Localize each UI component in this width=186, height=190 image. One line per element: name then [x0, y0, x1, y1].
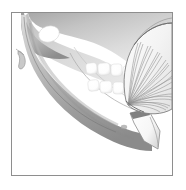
tooth-lower-3	[113, 82, 124, 94]
tooth-upper-2	[98, 63, 111, 76]
tooth-upper-1	[86, 62, 98, 74]
tooth-lower-1	[88, 79, 100, 91]
illustration-frame	[11, 12, 173, 176]
anatomy-illustration-canvas	[12, 13, 172, 175]
mental-foramen	[121, 125, 127, 129]
tooth-lower-2	[100, 81, 113, 94]
illustration-root	[0, 0, 186, 190]
tooth-upper-3	[111, 64, 122, 76]
